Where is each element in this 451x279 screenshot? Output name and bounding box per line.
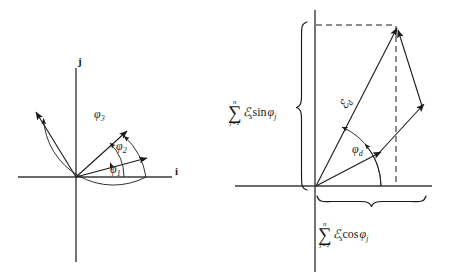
vertical-sum-brace bbox=[297, 22, 308, 190]
component-vector-3 bbox=[398, 30, 422, 106]
phi3-base: φ bbox=[94, 107, 101, 121]
horizontal-sigma-group: n ∑ j=1 bbox=[318, 221, 332, 249]
axis-label-j: j bbox=[78, 56, 82, 67]
figure-canvas bbox=[0, 0, 451, 279]
angle-label-phi2: φ2 bbox=[116, 140, 127, 155]
left-panel-group bbox=[18, 68, 172, 262]
vector-phasor-figure: j i φ1 φ2 φ3 ℰd φd n ∑ j=1 ℰssin φj bbox=[0, 0, 451, 279]
resultant-vector bbox=[316, 28, 397, 186]
component-vector-1 bbox=[316, 152, 381, 186]
angle-label-phi1: φ1 bbox=[110, 163, 121, 178]
horizontal-term-symbol: ℰ bbox=[333, 227, 340, 241]
horizontal-sum-body: ℰscos φj bbox=[333, 227, 369, 243]
axis-label-i: i bbox=[175, 166, 178, 177]
phi3-sub: 3 bbox=[101, 114, 105, 123]
phi2-sub: 2 bbox=[123, 146, 127, 155]
horizontal-sum-function: cos bbox=[342, 227, 358, 241]
angle-arc-phi2-outer bbox=[124, 136, 146, 177]
phi1-sub: 1 bbox=[117, 169, 121, 178]
vertical-sum-body: ℰssin φj bbox=[243, 105, 277, 121]
horizontal-sum-lower-limit: j=1 bbox=[320, 242, 330, 249]
phi-d-base: φ bbox=[352, 142, 359, 156]
horizontal-sum-formula: n ∑ j=1 ℰscos φj bbox=[318, 212, 368, 249]
phasor-vector-3 bbox=[36, 112, 76, 177]
horizontal-sum-brace bbox=[317, 196, 426, 207]
vertical-sum-function: sin bbox=[252, 105, 266, 119]
angle-arc-phi-d-lower bbox=[365, 144, 381, 186]
vertical-sum-lower-limit: j=1 bbox=[230, 120, 240, 127]
vertical-term-symbol: ℰ bbox=[243, 105, 250, 119]
component-vector-2 bbox=[378, 104, 424, 154]
angle-label-phi-d: φd bbox=[352, 143, 363, 158]
phi1-base: φ bbox=[110, 162, 117, 176]
angle-label-phi3: φ3 bbox=[94, 108, 105, 123]
horizontal-sum-arg-sub: j bbox=[366, 234, 368, 243]
phi2-base: φ bbox=[116, 139, 123, 153]
vertical-sum-formula: n ∑ j=1 ℰssin φj bbox=[228, 90, 276, 127]
vertical-sigma-group: n ∑ j=1 bbox=[228, 99, 242, 127]
vertical-sum-arg-sub: j bbox=[274, 112, 276, 121]
phi-d-sub: d bbox=[359, 149, 363, 158]
angle-arc-phi3 bbox=[44, 119, 147, 186]
